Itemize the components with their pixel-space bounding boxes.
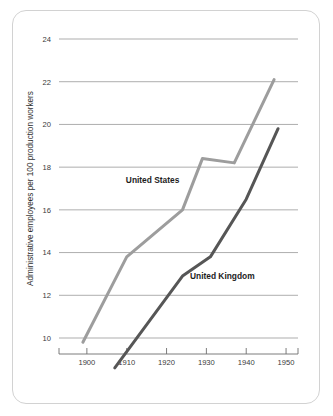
- gridlines: [59, 39, 298, 338]
- y-tick-label-22: 22: [43, 78, 51, 87]
- x-tick-label-1940: 1940: [238, 358, 255, 367]
- y-axis-ticks: 1012141618202224: [43, 35, 51, 343]
- y-tick-label-12: 12: [43, 291, 51, 300]
- x-axis: 190019101920193019401950: [59, 348, 298, 367]
- y-tick-label-18: 18: [43, 163, 51, 172]
- x-tick-label-1920: 1920: [158, 358, 175, 367]
- y-tick-label-20: 20: [43, 120, 51, 129]
- y-tick-label-16: 16: [43, 206, 51, 215]
- series-label-united-states: United States: [126, 175, 180, 185]
- line-chart: 1012141618202224 19001910192019301940195…: [13, 11, 321, 405]
- y-tick-label-10: 10: [43, 334, 51, 343]
- series-label-united-kingdom: United Kingdom: [190, 271, 255, 281]
- data-series: [83, 80, 278, 368]
- y-axis-title: Administrative employees per 100 product…: [26, 91, 35, 286]
- y-axis-title-text: Administrative employees per 100 product…: [26, 91, 35, 286]
- chart-card: 1012141618202224 19001910192019301940195…: [12, 10, 320, 404]
- y-tick-label-14: 14: [43, 248, 51, 257]
- x-tick-label-1930: 1930: [198, 358, 215, 367]
- series-line-united-kingdom: [115, 129, 278, 368]
- x-tick-label-1900: 1900: [78, 358, 95, 367]
- chart-svg: 1012141618202224 19001910192019301940195…: [13, 11, 321, 405]
- y-tick-label-24: 24: [43, 35, 51, 44]
- x-tick-label-1950: 1950: [278, 358, 295, 367]
- series-line-united-states: [83, 80, 274, 343]
